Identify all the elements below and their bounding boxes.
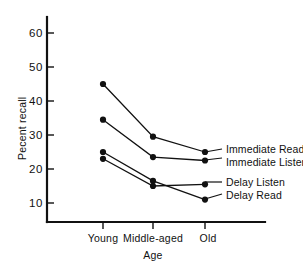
data-point [150,154,156,160]
data-point [150,134,156,140]
data-point [202,157,208,163]
chart-container: 10 20 30 40 50 60 Pecent recall Young Mi… [0,0,303,269]
data-point [100,156,106,162]
x-category-label-old: Old [200,232,217,244]
legend-label-delay-read: Delay Read [226,189,282,201]
data-point [150,178,156,184]
data-point [100,149,106,155]
y-axis-title: Pecent recall [16,97,28,160]
x-category-label-middle-aged: Middle-aged [123,232,183,244]
x-axis-title: Age [143,249,162,261]
y-tick-label-10: 10 [29,197,43,209]
data-point [100,117,106,123]
y-tick-label-30: 30 [29,129,43,141]
legend-leader-delay-read [205,194,222,199]
series-line-immediate-read [103,84,205,152]
y-tick-label-40: 40 [29,95,43,107]
legend-label-immediate-listen: Immediate Listen [226,156,303,168]
y-tick-label-60: 60 [29,27,43,39]
y-tick-label-50: 50 [29,61,43,73]
data-point [100,81,106,87]
legend-label-delay-listen: Delay Listen [226,176,285,188]
data-point [202,197,208,203]
legend-label-immediate-read: Immediate Read [226,143,303,155]
x-category-label-young: Young [88,232,118,244]
y-tick-label-20: 20 [29,163,43,175]
line-chart: 10 20 30 40 50 60 Pecent recall Young Mi… [0,0,303,269]
